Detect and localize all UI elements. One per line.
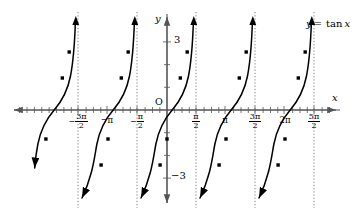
equation-equals: = — [314, 18, 322, 29]
curve-equation-label: y=tanx — [306, 18, 350, 29]
minus-sign: − — [68, 118, 75, 126]
branch-top-arrowheads — [72, 16, 315, 25]
curve-point-markers — [44, 50, 307, 166]
minus-sign: − — [130, 118, 137, 126]
x-tick-label-5pi-over-2: 5π 2 — [301, 113, 327, 131]
y-tick-label-neg3: −3 — [167, 170, 197, 181]
minus-sign: − — [101, 116, 108, 124]
x-tick-label-neg-pi-over-2: − π 2 — [123, 113, 151, 131]
tangent-function-plot: x y O 3 −3 − 3π 2 −π − π 2 π 2 π 3π 2 — [0, 0, 355, 215]
x-tick-label-pi-over-2: π 2 — [184, 113, 208, 131]
x-tick-label-2pi: 2π — [273, 116, 297, 125]
fraction: 5π 2 — [308, 113, 320, 131]
tangent-branch-partial-left — [35, 22, 76, 168]
x-tick-label-neg-3pi-over-2: − 3π 2 — [63, 113, 93, 131]
fraction: π 2 — [137, 113, 144, 131]
y-tick-label-3: 3 — [167, 34, 196, 45]
fraction: π 2 — [192, 113, 199, 131]
origin-label: O — [155, 96, 163, 107]
x-tick-label-pi: π — [214, 116, 236, 125]
x-tick-label-3pi-over-2: 3π 2 — [242, 113, 268, 131]
equation-lhs: y — [306, 18, 312, 29]
equation-argument: x — [344, 18, 350, 29]
x-axis-label: x — [332, 92, 338, 103]
equation-function: tan — [326, 18, 342, 29]
fraction: 3π 2 — [249, 113, 261, 131]
fraction: 3π 2 — [75, 113, 87, 131]
y-axis-label: y — [155, 13, 161, 24]
x-tick-label-neg-pi: −π — [94, 116, 120, 125]
plot-canvas — [0, 0, 355, 215]
